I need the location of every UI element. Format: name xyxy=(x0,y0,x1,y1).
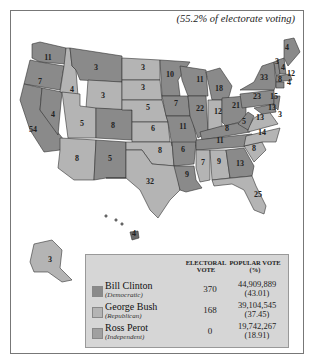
state-electoral-label: 8 xyxy=(252,144,256,153)
popular-vote: 19,742,267(18.91) xyxy=(228,322,286,340)
state-electoral-label: 4 xyxy=(70,85,74,94)
electoral-vote-header: ELECTORAL VOTE xyxy=(182,259,230,273)
candidate-party: (Republican) xyxy=(105,312,142,320)
state-electoral-label: 12 xyxy=(287,69,295,78)
state-electoral-label: 23 xyxy=(253,92,261,101)
state-electoral-label: 3 xyxy=(275,57,279,66)
state-electoral-label: 54 xyxy=(29,125,37,134)
state-electoral-label: 11 xyxy=(196,75,204,84)
state-electoral-label: 11 xyxy=(44,53,52,62)
state-electoral-label: 8 xyxy=(75,154,79,163)
state-electoral-label: 7 xyxy=(38,77,42,86)
results-legend: ELECTORAL VOTE POPULAR VOTE (%) Bill Cli… xyxy=(85,254,289,348)
democratic-swatch xyxy=(92,286,103,297)
electoral-vote: 0 xyxy=(190,326,230,336)
state-electoral-label: 7 xyxy=(174,99,178,108)
state-electoral-label: 8 xyxy=(158,146,162,155)
state-new-york xyxy=(240,62,276,90)
state-electoral-label: 6 xyxy=(181,145,185,154)
state-electoral-label: 8 xyxy=(111,121,115,130)
independent-swatch xyxy=(92,328,103,339)
candidate-party: (Democratic) xyxy=(105,291,143,299)
candidate-name: Ross Perot xyxy=(105,323,148,333)
state-electoral-label: 7 xyxy=(201,158,205,167)
state-electoral-label: 21 xyxy=(232,101,240,110)
state-electoral-label: 4 xyxy=(287,78,291,87)
state-electoral-label: 32 xyxy=(146,177,154,186)
state-electoral-label: 6 xyxy=(151,124,155,133)
state-electoral-label: 9 xyxy=(185,170,189,179)
state-electoral-label: 5 xyxy=(108,154,112,163)
state-electoral-label: 5 xyxy=(146,103,150,112)
candidate-party: (Independent) xyxy=(105,333,144,341)
popular-vote: 39,104,545(37.45) xyxy=(228,301,286,319)
state-electoral-label: 3 xyxy=(278,110,282,119)
state-electoral-label: 5 xyxy=(242,117,246,126)
state-electoral-label: 8 xyxy=(225,124,229,133)
state-wisconsin xyxy=(180,66,208,96)
state-electoral-label: 22 xyxy=(196,104,204,113)
state-electoral-label: 4 xyxy=(51,110,55,119)
state-electoral-label: 5 xyxy=(80,119,84,128)
state-electoral-label: 13 xyxy=(268,103,276,112)
popular-vote: 44,909,889(43.01) xyxy=(228,280,286,298)
candidate-name: Bill Clinton xyxy=(105,281,153,291)
state-electoral-label: 9 xyxy=(217,157,221,166)
state-electoral-label: 4 xyxy=(281,63,285,72)
state-electoral-label: 3 xyxy=(94,63,98,72)
republican-swatch xyxy=(92,307,103,318)
state-electoral-label: 3 xyxy=(101,91,105,100)
electoral-vote: 370 xyxy=(190,284,230,294)
state-electoral-label: 14 xyxy=(258,128,266,137)
candidate-name: George Bush xyxy=(105,302,157,312)
state-electoral-label: 11 xyxy=(216,136,224,145)
state-electoral-label: 33 xyxy=(260,73,268,82)
state-electoral-label: 3 xyxy=(141,83,145,92)
state-electoral-label: 4 xyxy=(285,43,289,52)
state-electoral-label: 3 xyxy=(141,63,145,72)
electoral-vote: 168 xyxy=(190,305,230,315)
state-electoral-label: 13 xyxy=(236,159,244,168)
popular-vote-header: POPULAR VOTE (%) xyxy=(226,259,284,273)
state-electoral-label: 12 xyxy=(214,107,222,116)
state-electoral-label: 4 xyxy=(132,229,136,238)
state-electoral-label: 3 xyxy=(48,255,52,264)
state-electoral-label: 10 xyxy=(166,70,174,79)
state-electoral-label: 8 xyxy=(278,75,282,84)
state-electoral-label: 11 xyxy=(179,122,187,131)
state-electoral-label: 15 xyxy=(270,92,278,101)
state-electoral-label: 13 xyxy=(256,113,264,122)
state-electoral-label: 18 xyxy=(215,84,223,93)
state-electoral-label: 25 xyxy=(254,190,262,199)
legend-row-perot: Ross Perot (Independent) 0 19,742,267(18… xyxy=(90,323,286,347)
